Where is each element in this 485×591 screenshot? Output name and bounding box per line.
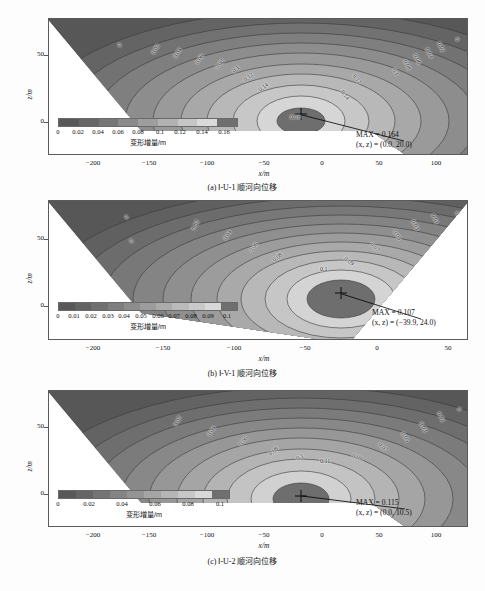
colorbar-tick: 0.1 bbox=[217, 312, 237, 319]
panel-b-xtick: 50 bbox=[433, 344, 463, 352]
max-coord-label: (x, z) = (−39.9, 24.0) bbox=[372, 318, 436, 328]
panel-b-ytick: 0 bbox=[22, 301, 44, 309]
colorbar-title: 变形增量/m bbox=[58, 137, 238, 147]
panel-b-xtick: −100 bbox=[219, 344, 249, 352]
running-head bbox=[250, 1, 483, 10]
panel-a-xtick: −150 bbox=[134, 159, 164, 167]
colorbar-tick: 0.06 bbox=[108, 128, 128, 135]
panel-a-xlabel: x/m bbox=[244, 169, 284, 178]
panel-b-ylabel: z/m bbox=[25, 254, 34, 284]
colorbar-tick: 0.14 bbox=[192, 128, 212, 135]
panel-a-max-annotation: MAX = 0.164 (x, z) = (0.0, 20.0) bbox=[356, 130, 412, 150]
panel-c-xtick: −150 bbox=[134, 531, 164, 539]
colorbar-tick: 0.09 bbox=[198, 312, 218, 319]
panel-b-ytick: 50 bbox=[22, 234, 44, 242]
max-coord-label: (x, z) = (0.0, 10.5) bbox=[356, 508, 412, 518]
panel-b-caption: (b) Ⅰ-V-1 顺河向位移 bbox=[0, 367, 485, 378]
colorbar-tick: 0.08 bbox=[178, 500, 198, 507]
panel-a-xtick: −200 bbox=[78, 159, 108, 167]
panel-a-xtick: −50 bbox=[249, 159, 279, 167]
panel-c-xtick: 0 bbox=[307, 531, 337, 539]
panel-a-ytick: 50 bbox=[22, 50, 44, 58]
colorbar-gradient bbox=[58, 118, 238, 127]
panel-c-xtick: −200 bbox=[78, 531, 108, 539]
colorbar-tick: 0.02 bbox=[79, 500, 99, 507]
panel-c-xtick: −100 bbox=[192, 531, 222, 539]
panel-c-ytick: 50 bbox=[22, 422, 44, 430]
colorbar-tick: 0 bbox=[48, 500, 68, 507]
colorbar-tick: 0.1 bbox=[210, 500, 230, 507]
panel-c-ylabel: z/m bbox=[25, 442, 34, 472]
panel-c-xtick: 100 bbox=[421, 531, 451, 539]
colorbar-gradient bbox=[58, 490, 230, 499]
contour-label: 0.16 bbox=[290, 114, 301, 120]
panel-c-xlabel: x/m bbox=[244, 541, 284, 550]
panel-a: 0 0.02 0.04 0.06 0.08 0.1 0.12 0.14 0.16… bbox=[0, 14, 485, 194]
max-value-label: MAX = 0.115 bbox=[356, 498, 412, 508]
colorbar-tick: 0.16 bbox=[214, 128, 234, 135]
panel-a-xtick: 100 bbox=[421, 159, 451, 167]
figure-page: 0 0.02 0.04 0.06 0.08 0.1 0.12 0.14 0.16… bbox=[0, 0, 485, 591]
panel-a-xtick: 50 bbox=[364, 159, 394, 167]
max-value-label: MAX = 0.107 bbox=[372, 308, 436, 318]
contour-label: 0.11 bbox=[320, 458, 330, 464]
panel-a-xtick: −100 bbox=[192, 159, 222, 167]
panel-a-caption: (a) Ⅰ-U-1 顺河向位移 bbox=[0, 181, 485, 192]
colorbar-tick: 0.1 bbox=[150, 128, 170, 135]
panel-b: 0 0 0.02 0.04 0.06 0.08 0.1 0.09 0.07 0.… bbox=[0, 196, 485, 384]
panel-c-xtick: −50 bbox=[249, 531, 279, 539]
colorbar-tick: 0.04 bbox=[112, 500, 132, 507]
colorbar-title: 变形增量/m bbox=[58, 321, 238, 331]
panel-c-max-annotation: MAX = 0.115 (x, z) = (0.0, 10.5) bbox=[356, 498, 412, 518]
colorbar-tick: 0.04 bbox=[88, 128, 108, 135]
panel-b-xtick: −200 bbox=[78, 344, 108, 352]
colorbar-tick: 0.12 bbox=[170, 128, 190, 135]
panel-b-xtick: 0 bbox=[362, 344, 392, 352]
panel-b-xtick: −50 bbox=[290, 344, 320, 352]
panel-a-ytick: 0 bbox=[22, 117, 44, 125]
panel-c-xtick: 50 bbox=[364, 531, 394, 539]
colorbar-tick: 0.06 bbox=[145, 500, 165, 507]
panel-c: 0.02 0.04 0.06 0.08 0.1 0.11 0.09 0.07 0… bbox=[0, 386, 485, 572]
colorbar-gradient bbox=[58, 302, 238, 311]
colorbar-tick: 0 bbox=[48, 128, 68, 135]
colorbar-title: 变形增量/m bbox=[58, 509, 230, 519]
colorbar-tick: 0.02 bbox=[68, 128, 88, 135]
contour-label: 0.1 bbox=[320, 266, 328, 272]
max-value-label: MAX = 0.164 bbox=[356, 130, 412, 140]
max-coord-label: (x, z) = (0.0, 20.0) bbox=[356, 140, 412, 150]
panel-b-xlabel: x/m bbox=[244, 354, 284, 363]
colorbar-tick: 0.08 bbox=[128, 128, 148, 135]
panel-b-xtick: −150 bbox=[148, 344, 178, 352]
panel-c-ytick: 0 bbox=[22, 489, 44, 497]
panel-a-xtick: 0 bbox=[307, 159, 337, 167]
panel-c-caption: (c) Ⅰ-U-2 顺河向位移 bbox=[0, 555, 485, 566]
panel-b-max-annotation: MAX = 0.107 (x, z) = (−39.9, 24.0) bbox=[372, 308, 436, 328]
panel-a-ylabel: z/m bbox=[25, 70, 34, 100]
